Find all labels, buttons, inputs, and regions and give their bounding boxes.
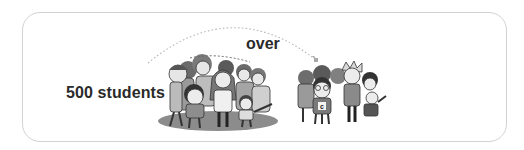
shirt-letter: c (320, 103, 324, 110)
over-label: over (246, 35, 280, 53)
students-count-label: 500 students (66, 84, 165, 102)
illustration-art: c (0, 0, 524, 150)
arc-arrow-icon (148, 28, 318, 63)
small-student-group-icon: c (298, 61, 386, 124)
large-student-crowd-icon (158, 54, 278, 131)
